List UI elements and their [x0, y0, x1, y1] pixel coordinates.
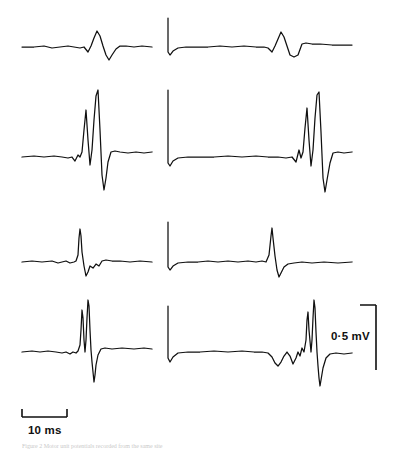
trace-row3-left: [22, 229, 152, 276]
trace-row4-left: [22, 300, 152, 382]
time-scale-bar-path: [22, 409, 67, 417]
time-scale-bar: [22, 409, 67, 417]
trace-row3-right: [168, 222, 352, 277]
trace-row4-right: [168, 300, 352, 386]
electrophysiology-figure: 10 ms 0·5 mV Figure 2 Motor unit potenti…: [0, 0, 395, 451]
figure-caption: Figure 2 Motor unit potentials recorded …: [22, 443, 382, 449]
trace-row2-left: [22, 90, 152, 190]
amplitude-scale-label: 0·5 mV: [331, 330, 370, 342]
trace-row1-right: [168, 18, 352, 57]
trace-group: [22, 18, 352, 386]
trace-canvas: [0, 0, 395, 451]
time-scale-label: 10 ms: [28, 424, 62, 436]
trace-row1-left: [22, 31, 152, 60]
trace-row2-right: [168, 90, 352, 192]
